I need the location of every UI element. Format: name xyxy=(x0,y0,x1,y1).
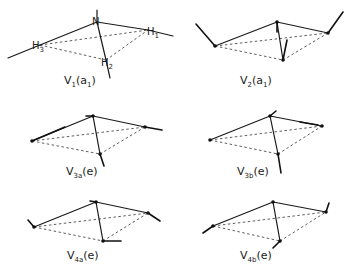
atom-label-n: N xyxy=(92,16,99,27)
mode-v4a-panel xyxy=(28,200,160,243)
mode-v3b-panel xyxy=(208,111,324,173)
mode-v4b-panel xyxy=(203,200,329,248)
mode-v3a-panel xyxy=(30,114,162,166)
mode-v2-panel xyxy=(196,12,343,62)
mode-v1-panel: N H1 H2 H3 xyxy=(8,10,173,78)
mode-v2-caption: V2(a1) xyxy=(240,74,272,87)
vibrational-modes-diagram: N H1 H2 H3 xyxy=(0,0,350,267)
mode-v3b-caption: V3b(e) xyxy=(237,165,269,178)
mode-v4b-caption: V4b(e) xyxy=(240,249,272,262)
mode-v4a-caption: V4a(e) xyxy=(67,249,99,262)
atom-label-h1: H1 xyxy=(147,26,159,40)
mode-v1-caption: V1(a1) xyxy=(64,74,96,87)
atom-label-h3: H3 xyxy=(32,40,44,54)
mode-v3a-caption: V3a(e) xyxy=(66,165,98,178)
atom-label-h2: H2 xyxy=(101,57,113,71)
